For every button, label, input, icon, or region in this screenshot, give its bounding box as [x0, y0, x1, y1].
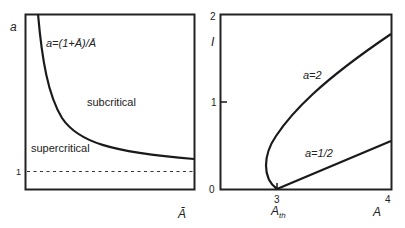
- right-ylabel: I: [211, 35, 215, 49]
- right-xtick-4: 4: [385, 194, 391, 205]
- right-xlabel: A: [372, 205, 381, 219]
- right-curve-a12-label: a=1/2: [305, 147, 333, 159]
- right-panel: 2 I 1 0 a=2 a=1/2 3 4 Ath A: [209, 11, 392, 220]
- left-xlabel: Ā: [177, 207, 186, 221]
- right-ytick-1: 1: [211, 97, 217, 108]
- left-ytick-1: 1: [16, 167, 21, 177]
- left-region-supercritical: supercritical: [31, 142, 90, 154]
- right-ytick-0: 0: [209, 184, 215, 195]
- right-curve-a12: [277, 141, 391, 189]
- left-panel: a a=(1+Ā)/Ā subcritical supercritical 1 …: [10, 14, 195, 221]
- right-curve-a2: [266, 34, 391, 189]
- figure: a a=(1+Ā)/Ā subcritical supercritical 1 …: [0, 0, 405, 228]
- left-region-subcritical: subcritical: [87, 96, 136, 108]
- left-ylabel: a: [10, 20, 17, 34]
- left-curve-hyperbola: [38, 14, 194, 159]
- right-ytick-2: 2: [210, 11, 216, 22]
- right-curve-a2-label: a=2: [303, 69, 322, 81]
- right-xlabel-ath: Ath: [270, 204, 286, 220]
- left-formula-label: a=(1+Ā)/Ā: [46, 37, 96, 49]
